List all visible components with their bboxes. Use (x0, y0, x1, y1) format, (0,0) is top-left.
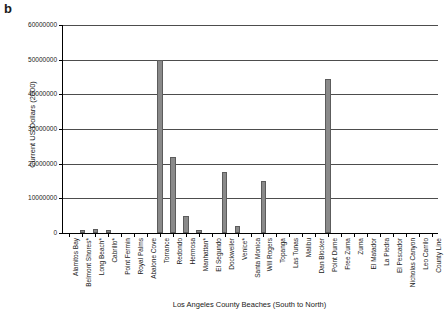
x-tick-label: Cabrillo* (111, 238, 119, 263)
y-tick-mark (59, 164, 63, 165)
x-tick-label: Abalone Cove (150, 238, 158, 279)
x-tick-mark (380, 233, 381, 237)
x-tick-mark (367, 233, 368, 237)
y-tick-mark (59, 198, 63, 199)
x-tick-label: Hermosa (189, 238, 197, 264)
gridline (63, 198, 438, 199)
x-tick-label: Point Dume (331, 238, 339, 272)
bar (183, 216, 189, 233)
x-tick-mark (354, 233, 355, 237)
x-tick-label: Point Fermin (124, 238, 132, 275)
x-tick-label: El Matador (370, 238, 378, 269)
x-tick-mark (263, 233, 264, 237)
x-tick-label: Torrance (163, 238, 171, 263)
x-tick-mark (406, 233, 407, 237)
x-tick-label: Royal Palms (137, 238, 145, 274)
y-tick-label: 0 (53, 229, 57, 237)
x-tick-label: Will Rogers (266, 238, 274, 271)
bar (261, 181, 267, 233)
x-tick-mark (134, 233, 135, 237)
x-tick-label: Free Zuma (344, 238, 352, 270)
x-tick-mark (173, 233, 174, 237)
x-tick-mark (147, 233, 148, 237)
x-tick-label: Long Beach* (98, 238, 106, 275)
bar (235, 226, 241, 233)
x-tick-mark (69, 233, 70, 237)
x-tick-label: El Pescador (396, 238, 404, 273)
y-tick-mark (59, 94, 63, 95)
x-tick-mark (225, 233, 226, 237)
x-tick-label: Topanga (279, 238, 287, 263)
panel-label: b (4, 2, 12, 16)
y-tick-label: 50000000 (28, 56, 57, 64)
x-tick-mark (328, 233, 329, 237)
bar (222, 172, 228, 233)
bar (157, 60, 163, 233)
x-tick-mark (238, 233, 239, 237)
x-tick-label: Santa Monica (254, 238, 262, 278)
x-tick-label: Belmont Shores* (85, 238, 93, 287)
y-tick-label: 10000000 (28, 194, 57, 202)
x-tick-mark (212, 233, 213, 237)
x-tick-label: Zuma (357, 238, 365, 255)
x-tick-mark (121, 233, 122, 237)
figure: b Current US Dollars (2000) 010000000200… (0, 0, 445, 314)
y-tick-label: 60000000 (28, 21, 57, 29)
x-tick-mark (82, 233, 83, 237)
gridline (63, 25, 438, 26)
x-tick-mark (393, 233, 394, 237)
x-tick-mark (276, 233, 277, 237)
x-tick-mark (251, 233, 252, 237)
x-tick-mark (432, 233, 433, 237)
x-tick-label: La Piedra (383, 238, 391, 266)
x-tick-label: Redondo (176, 238, 184, 264)
x-tick-mark (302, 233, 303, 237)
x-tick-label: Manhattan* (202, 238, 210, 271)
y-tick-mark (59, 129, 63, 130)
plot-area: 0100000002000000030000000400000005000000… (62, 25, 438, 234)
bar (325, 79, 331, 233)
y-tick-mark (59, 60, 63, 61)
gridline (63, 60, 438, 61)
x-tick-label: County Line (435, 238, 443, 273)
y-tick-mark (59, 233, 63, 234)
x-tick-label: Venice* (241, 238, 249, 260)
x-tick-mark (186, 233, 187, 237)
x-tick-label: El Segundo (215, 238, 223, 272)
y-tick-label: 40000000 (28, 90, 57, 98)
x-tick-label: Leo Carrilo (422, 238, 430, 270)
x-tick-mark (95, 233, 96, 237)
x-tick-label: Las Tunas (292, 238, 300, 268)
x-axis-title: Los Angeles County Beaches (South to Nor… (62, 300, 437, 309)
gridline (63, 164, 438, 165)
bar (170, 157, 176, 233)
x-tick-mark (419, 233, 420, 237)
y-tick-label: 20000000 (28, 160, 57, 168)
x-tick-label: Alamitos Bay (72, 238, 80, 276)
x-tick-mark (289, 233, 290, 237)
y-tick-label: 30000000 (28, 125, 57, 133)
x-tick-label: Dan Blocker (318, 238, 326, 273)
x-tick-mark (315, 233, 316, 237)
x-tick-mark (341, 233, 342, 237)
x-tick-label: Nicholas Canyon (409, 238, 417, 287)
y-tick-mark (59, 25, 63, 26)
x-tick-label: Dockweiler (228, 238, 236, 270)
x-tick-mark (160, 233, 161, 237)
x-tick-label: Malibu (305, 238, 313, 257)
x-tick-mark (108, 233, 109, 237)
gridline (63, 129, 438, 130)
gridline (63, 94, 438, 95)
x-tick-mark (199, 233, 200, 237)
